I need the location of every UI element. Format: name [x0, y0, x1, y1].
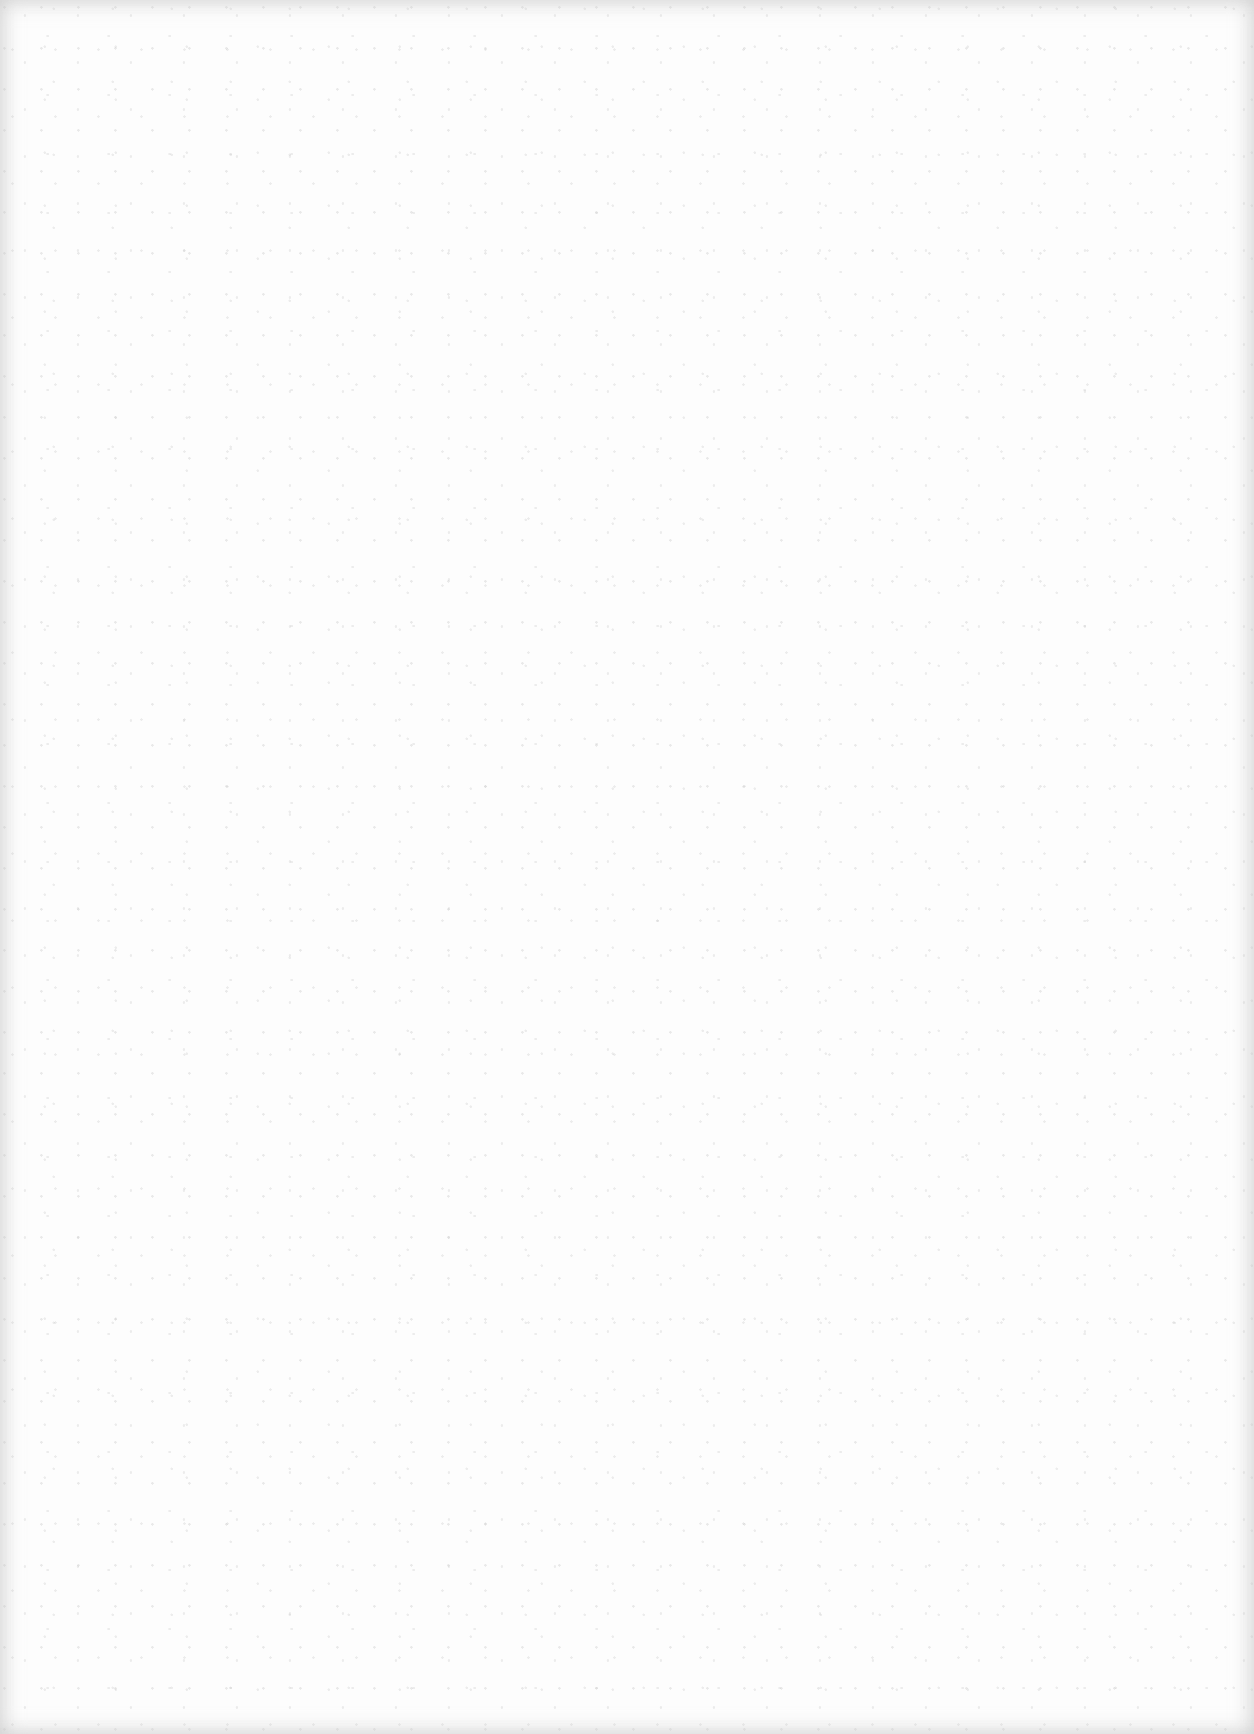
blank-scanned-page — [0, 0, 1254, 1734]
page-content — [0, 0, 1254, 1734]
